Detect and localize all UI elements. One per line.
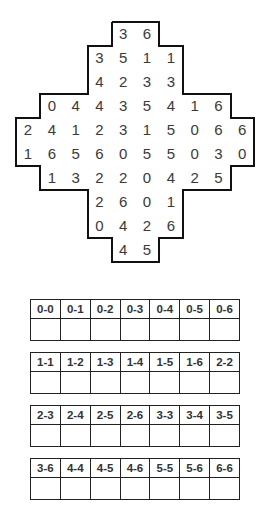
grid-number-cell: 6 — [111, 190, 135, 214]
answer-cell[interactable] — [180, 372, 210, 394]
domino-label: 4-5 — [90, 459, 120, 478]
grid-number-cell: 3 — [159, 70, 183, 94]
domino-label: 0-2 — [90, 300, 120, 319]
answer-cell[interactable] — [180, 478, 210, 500]
grid-number-cell: 0 — [111, 142, 135, 166]
domino-table-3: 3-6 4-4 4-5 4-6 5-5 5-6 6-6 — [30, 458, 240, 500]
answer-cell[interactable] — [150, 478, 180, 500]
answer-cell[interactable] — [120, 372, 150, 394]
grid-number-cell: 6 — [206, 118, 230, 142]
grid-number-cell: 6 — [230, 118, 254, 142]
answer-cell[interactable] — [180, 319, 210, 341]
grid-number-cell: 6 — [135, 22, 159, 46]
domino-label: 0-5 — [180, 300, 210, 319]
grid-number-cell: 6 — [159, 214, 183, 238]
grid-number-cell: 5 — [159, 142, 183, 166]
grid-number-cell: 3 — [64, 166, 88, 190]
grid-number-cell: 6 — [87, 142, 111, 166]
answer-cell[interactable] — [60, 319, 90, 341]
grid-number-cell: 4 — [87, 94, 111, 118]
answer-cell[interactable] — [31, 478, 61, 500]
answer-cell[interactable] — [180, 425, 210, 447]
grid-number-cell: 0 — [230, 142, 254, 166]
domino-puzzle-grid: 3635114233044354162412315066165605503013… — [0, 0, 261, 290]
answer-cell[interactable] — [120, 478, 150, 500]
answer-cell[interactable] — [150, 372, 180, 394]
domino-label: 1-5 — [150, 353, 180, 372]
answer-cell[interactable] — [120, 425, 150, 447]
grid-number-cell: 5 — [111, 46, 135, 70]
grid-number-cell: 4 — [111, 214, 135, 238]
answer-cell[interactable] — [31, 319, 61, 341]
domino-table-2: 2-3 2-4 2-5 2-6 3-3 3-4 3-5 — [30, 405, 240, 447]
answer-cell[interactable] — [210, 372, 240, 394]
grid-number-cell: 2 — [111, 166, 135, 190]
grid-number-cell: 2 — [87, 166, 111, 190]
grid-number-cell: 4 — [87, 70, 111, 94]
grid-number-cell: 1 — [64, 118, 88, 142]
domino-label: 1-3 — [90, 353, 120, 372]
domino-label: 6-6 — [210, 459, 240, 478]
domino-label: 0-4 — [150, 300, 180, 319]
grid-number-cell: 2 — [111, 70, 135, 94]
answer-cell[interactable] — [210, 425, 240, 447]
grid-number-cell: 4 — [111, 238, 135, 262]
answer-cell[interactable] — [210, 478, 240, 500]
answer-cell[interactable] — [60, 372, 90, 394]
grid-number-cell: 5 — [159, 118, 183, 142]
answer-cell[interactable] — [90, 372, 120, 394]
domino-label: 3-5 — [210, 406, 240, 425]
answer-cell[interactable] — [31, 425, 61, 447]
grid-number-cell: 4 — [40, 118, 64, 142]
grid-number-cell: 1 — [135, 46, 159, 70]
domino-label: 0-6 — [210, 300, 240, 319]
grid-number-cell: 0 — [183, 118, 207, 142]
domino-label: 5-6 — [180, 459, 210, 478]
domino-label: 0-3 — [120, 300, 150, 319]
answer-cell[interactable] — [150, 319, 180, 341]
grid-number-cell: 3 — [111, 22, 135, 46]
grid-number-cell: 4 — [159, 94, 183, 118]
answer-cell[interactable] — [90, 478, 120, 500]
answer-cell[interactable] — [31, 372, 61, 394]
domino-label: 1-4 — [120, 353, 150, 372]
answer-cell[interactable] — [150, 425, 180, 447]
grid-number-cell: 4 — [64, 94, 88, 118]
domino-table-0: 0-0 0-1 0-2 0-3 0-4 0-5 0-6 — [30, 299, 240, 341]
answer-cell[interactable] — [210, 319, 240, 341]
grid-number-cell: 0 — [40, 94, 64, 118]
domino-label: 4-4 — [60, 459, 90, 478]
grid-number-cell: 4 — [159, 166, 183, 190]
grid-number-cell: 2 — [87, 118, 111, 142]
grid-number-cell: 3 — [135, 70, 159, 94]
grid-number-cell: 5 — [206, 166, 230, 190]
grid-number-cell: 5 — [64, 142, 88, 166]
grid-number-cell: 1 — [135, 118, 159, 142]
domino-label: 1-2 — [60, 353, 90, 372]
domino-label: 3-3 — [150, 406, 180, 425]
answer-cell[interactable] — [90, 425, 120, 447]
answer-cell[interactable] — [60, 425, 90, 447]
grid-number-cell: 3 — [206, 142, 230, 166]
domino-label: 3-4 — [180, 406, 210, 425]
grid-number-cell: 0 — [135, 166, 159, 190]
domino-label: 2-2 — [210, 353, 240, 372]
grid-number-cell: 5 — [135, 142, 159, 166]
grid-number-cell: 0 — [87, 214, 111, 238]
answer-cell[interactable] — [60, 478, 90, 500]
answer-cell[interactable] — [120, 319, 150, 341]
domino-label: 2-5 — [90, 406, 120, 425]
domino-label: 1-6 — [180, 353, 210, 372]
grid-number-cell: 1 — [16, 142, 40, 166]
domino-table-1: 1-1 1-2 1-3 1-4 1-5 1-6 2-2 — [30, 352, 240, 394]
grid-number-cell: 6 — [206, 94, 230, 118]
domino-label: 4-6 — [120, 459, 150, 478]
grid-number-cell: 1 — [159, 46, 183, 70]
domino-label: 2-3 — [31, 406, 61, 425]
domino-label: 3-6 — [31, 459, 61, 478]
answer-cell[interactable] — [90, 319, 120, 341]
grid-number-cell: 1 — [183, 94, 207, 118]
domino-label: 0-1 — [60, 300, 90, 319]
grid-number-cell: 2 — [16, 118, 40, 142]
grid-number-cell: 1 — [40, 166, 64, 190]
